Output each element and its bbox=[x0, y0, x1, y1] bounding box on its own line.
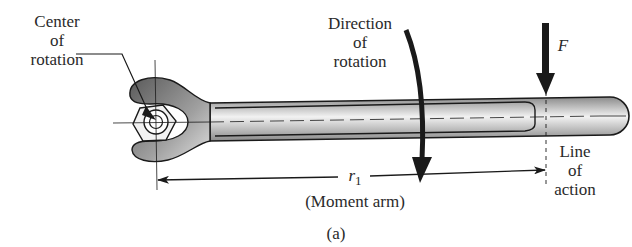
torque-wrench-diagram: Center of rotation Direction of rotation… bbox=[0, 0, 632, 247]
line-of-action-label: Line of action bbox=[548, 142, 602, 199]
label-line: Center bbox=[22, 12, 92, 31]
label-line: of bbox=[22, 31, 92, 50]
direction-of-rotation-label: Direction of rotation bbox=[314, 14, 406, 71]
label-line: of bbox=[548, 161, 602, 180]
force-symbol: F bbox=[555, 36, 571, 55]
force-arrow bbox=[536, 23, 555, 95]
moment-arm-label: (Moment arm) bbox=[290, 192, 420, 211]
caption-text: (a) bbox=[316, 224, 356, 243]
center-of-rotation-label: Center of rotation bbox=[22, 12, 92, 69]
label-line: action bbox=[548, 180, 602, 199]
moment-arm-text: (Moment arm) bbox=[290, 192, 420, 211]
r-subscript: 1 bbox=[355, 173, 362, 188]
moment-arm-symbol: r1 bbox=[340, 166, 370, 190]
label-line: Line bbox=[548, 142, 602, 161]
label-line: Direction bbox=[314, 14, 406, 33]
label-line: rotation bbox=[22, 50, 92, 69]
label-line: rotation bbox=[314, 52, 406, 71]
label-line: of bbox=[314, 33, 406, 52]
figure-caption: (a) bbox=[316, 224, 356, 243]
force-label: F bbox=[555, 36, 571, 55]
